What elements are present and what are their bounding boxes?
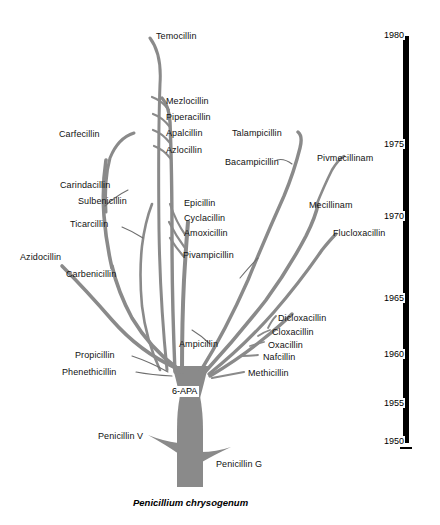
label-nafcillin: Nafcillin <box>263 352 295 362</box>
label-carbenicillin: Carbenicillin <box>66 269 116 279</box>
year-label-1950: 1950 <box>383 436 405 446</box>
year-label-1970: 1970 <box>383 211 405 221</box>
timeline-axis <box>403 36 409 443</box>
label-methicillin: Methicillin <box>248 368 289 378</box>
core-label-6-apa: 6-APA <box>170 386 199 397</box>
tree-graphic <box>0 0 440 525</box>
label-mezlocillin: Mezlocillin <box>166 96 209 106</box>
branch-penicillin-v <box>148 435 179 454</box>
branch-sulbenicillin <box>141 204 161 370</box>
branch-ticarcillin-leader <box>122 227 143 238</box>
source-organism-label: Penicillium chrysogenum <box>133 497 248 508</box>
label-azlocillin: Azlocillin <box>166 145 202 155</box>
label-sulbenicillin: Sulbenicillin <box>78 196 127 206</box>
label-cloxacillin: Cloxacillin <box>272 327 314 337</box>
timeline-end-tick <box>400 447 412 449</box>
year-label-1955: 1955 <box>383 398 405 408</box>
label-azidocillin: Azidocillin <box>20 252 61 262</box>
label-dicloxacillin: Dicloxacillin <box>278 313 326 323</box>
label-temocillin: Temocillin <box>156 31 197 41</box>
label-penicillin-v: Penicillin V <box>98 431 143 441</box>
year-label-1965: 1965 <box>383 293 405 303</box>
branch-phenethicillin-leader <box>136 372 172 376</box>
label-talampicillin: Talampicillin <box>232 128 282 138</box>
penicillin-development-tree-figure: 1980197519701965196019551950 TemocillinM… <box>0 0 440 525</box>
year-label-1975: 1975 <box>383 139 405 149</box>
label-piperacillin: Piperacillin <box>166 112 211 122</box>
label-pivmecillinam: Pivmecillinam <box>317 153 373 163</box>
label-epicillin: Epicillin <box>184 198 215 208</box>
branch-pivmecillinam <box>316 156 344 206</box>
trunk <box>177 396 203 487</box>
label-mecillinam: Mecillinam <box>309 200 353 210</box>
label-pivampicillin: Pivampicillin <box>183 250 234 260</box>
label-apalcillin: Apalcillin <box>166 128 203 138</box>
label-oxacillin: Oxacillin <box>268 340 303 350</box>
label-cyclacillin: Cyclacillin <box>184 213 225 223</box>
label-flucloxacillin: Flucloxacillin <box>333 228 385 238</box>
label-bacampicillin: Bacampicillin <box>225 157 279 167</box>
label-carindacillin: Carindacillin <box>60 180 110 190</box>
label-penicillin-g: Penicillin G <box>216 459 262 469</box>
label-carfecillin: Carfecillin <box>59 129 100 139</box>
twig-nafcillin <box>242 355 258 356</box>
year-label-1980: 1980 <box>383 30 405 40</box>
twig-bacampicillin-leader <box>277 160 292 165</box>
label-ampicillin: Ampicillin <box>179 339 218 349</box>
label-propicillin: Propicillin <box>75 350 115 360</box>
label-phenethicillin: Phenethicillin <box>62 367 116 377</box>
label-amoxicillin: Amoxicillin <box>184 228 228 238</box>
label-ticarcillin: Ticarcillin <box>70 219 108 229</box>
year-label-1960: 1960 <box>383 349 405 359</box>
